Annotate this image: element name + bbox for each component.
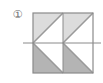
top-left-cell: [33, 13, 63, 43]
figure-container: ①: [0, 0, 103, 83]
symmetry-figure-svg: [0, 0, 103, 83]
top-right-cell: [63, 13, 93, 43]
bottom-left-cell: [33, 43, 63, 73]
bottom-right-cell: [63, 43, 93, 73]
